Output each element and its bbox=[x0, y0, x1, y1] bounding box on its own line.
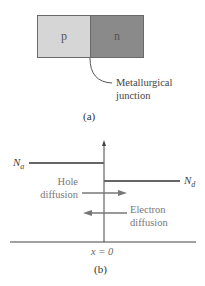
diagram-lines bbox=[0, 0, 205, 286]
caption-b: (b) bbox=[94, 263, 107, 275]
na-label: Na bbox=[13, 156, 24, 171]
nd-label: Nd bbox=[184, 174, 195, 189]
hole-diffusion-label: Hole diffusion bbox=[38, 175, 78, 201]
electron-diffusion-label: Electron diffusion bbox=[130, 203, 168, 229]
caption-a: (a) bbox=[83, 110, 95, 122]
x-zero-label: x = 0 bbox=[91, 245, 113, 258]
junction-label: Metallurgical junction bbox=[116, 76, 172, 102]
